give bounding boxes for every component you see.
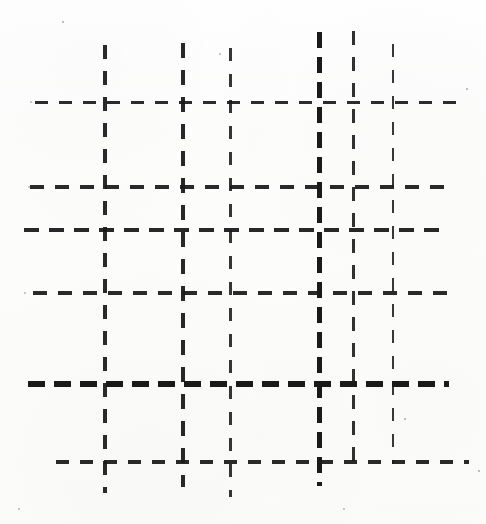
scan-speck xyxy=(219,53,221,55)
horizontal-dashed-line-h1 xyxy=(35,101,461,104)
figure-canvas: Scanned black-and-white figure of a grid… xyxy=(0,0,486,524)
vertical-dashed-line-v4 xyxy=(317,32,322,486)
horizontal-dashed-line-h5 xyxy=(28,381,449,386)
horizontal-dashed-line-h4 xyxy=(33,291,448,294)
vertical-dashed-line-v6 xyxy=(392,44,395,464)
horizontal-dashed-line-h6 xyxy=(56,460,469,463)
scan-speck xyxy=(24,292,26,294)
vertical-dashed-line-v2 xyxy=(181,43,184,487)
horizontal-dashed-line-h3 xyxy=(24,228,441,231)
scan-speck xyxy=(18,508,20,510)
scan-speck xyxy=(62,21,64,23)
scan-speck xyxy=(30,101,32,103)
paper-texture-overlay xyxy=(0,0,486,524)
scan-speck xyxy=(343,508,345,510)
scan-speck xyxy=(466,88,468,90)
vertical-dashed-line-v1 xyxy=(103,45,106,493)
horizontal-dashed-line-h2 xyxy=(30,185,447,188)
vertical-dashed-line-v3 xyxy=(229,48,232,497)
scan-speck xyxy=(404,418,406,420)
scan-speck xyxy=(478,470,480,472)
vertical-dashed-line-v5 xyxy=(352,31,355,470)
